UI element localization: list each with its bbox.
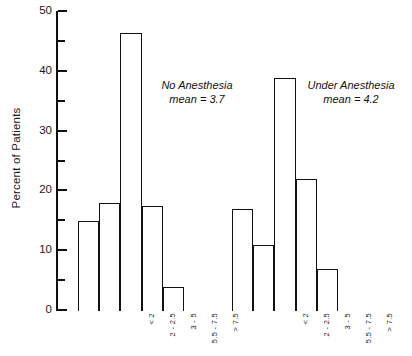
x-tick-label: 5.5 - 7.5 — [364, 313, 373, 356]
y-tick-major — [58, 249, 67, 251]
y-tick-label: 0 — [18, 303, 52, 315]
x-tick-label: 5.5 - 7.5 — [210, 313, 219, 356]
x-tick-label: 2 - 2.5 — [168, 313, 177, 356]
x-tick-label: > 7.5 — [231, 313, 240, 356]
bar — [253, 245, 274, 311]
x-tick-label: 2 - 2.5 — [322, 313, 331, 356]
y-tick-label: 10 — [18, 243, 52, 255]
y-tick-major — [58, 10, 67, 12]
y-tick-major — [58, 70, 67, 72]
y-tick-major — [58, 130, 67, 132]
y-tick-label: 30 — [18, 124, 52, 136]
annotation-mean-left: mean = 3.7 — [138, 92, 256, 106]
bar — [163, 287, 184, 311]
bar — [99, 203, 120, 311]
bar — [120, 33, 141, 311]
x-tick-label: > 7.5 — [385, 313, 394, 356]
bar — [232, 209, 253, 311]
annotation-under-anesthesia: Under Anesthesia mean = 4.2 — [292, 78, 410, 106]
x-tick-label: 3 - 5 — [343, 313, 352, 356]
y-tick-label: 50 — [18, 4, 52, 16]
bar — [296, 179, 317, 311]
annotation-title-right: Under Anesthesia — [292, 78, 410, 92]
y-axis-label: Percent of Patients — [10, 88, 22, 228]
y-tick-minor — [58, 279, 65, 281]
bar — [274, 78, 295, 311]
bar — [317, 269, 338, 311]
y-tick-label: 20 — [18, 183, 52, 195]
y-tick-major — [58, 309, 67, 311]
histogram-chart: Percent of Patients 01020304050 < 22 - 2… — [0, 0, 412, 356]
y-tick-minor — [58, 160, 65, 162]
y-tick-minor — [58, 219, 65, 221]
annotation-no-anesthesia: No Anesthesia mean = 3.7 — [138, 78, 256, 106]
annotation-mean-right: mean = 4.2 — [292, 92, 410, 106]
y-tick-major — [58, 189, 67, 191]
x-tick-label: < 2 — [301, 313, 310, 356]
bar — [78, 221, 99, 311]
y-tick-minor — [58, 100, 65, 102]
annotation-title-left: No Anesthesia — [138, 78, 256, 92]
y-tick-minor — [58, 40, 65, 42]
bar — [142, 206, 163, 311]
y-tick-label: 40 — [18, 64, 52, 76]
x-tick-label: < 2 — [147, 313, 156, 356]
x-tick-label: 3 - 5 — [189, 313, 198, 356]
